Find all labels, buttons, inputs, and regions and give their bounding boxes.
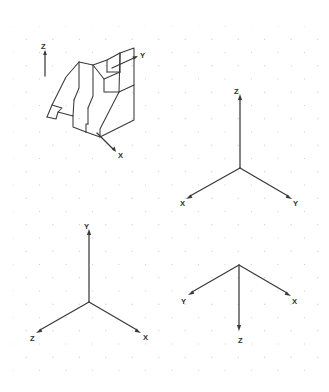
drawing-sheet: Z Y X Z X Y [0, 0, 329, 392]
triad3-axis-x [239, 265, 291, 296]
triad3-axis-y-label: Y [181, 297, 186, 306]
axis-triad-bottom-right: Z Y X [0, 0, 329, 392]
triad3-axis-y [188, 265, 239, 295]
triad3-axis-x-label: X [292, 297, 297, 306]
triad3-axis-z-label: Z [238, 336, 243, 345]
triad3-axis-z [237, 265, 241, 331]
